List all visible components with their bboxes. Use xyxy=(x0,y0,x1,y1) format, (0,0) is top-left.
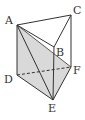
vertex-label-a: A xyxy=(4,14,14,27)
vertex-label-d: D xyxy=(4,73,13,86)
vertex-label-c: C xyxy=(73,4,81,17)
prism-diagram: A C B D F E xyxy=(0,0,85,120)
edge-bc xyxy=(54,15,71,47)
vertex-label-f: F xyxy=(73,64,81,77)
shaded-plane-adef xyxy=(17,25,71,100)
edge-ac xyxy=(17,15,71,25)
vertex-label-e: E xyxy=(48,102,56,115)
vertex-label-b: B xyxy=(56,46,64,59)
